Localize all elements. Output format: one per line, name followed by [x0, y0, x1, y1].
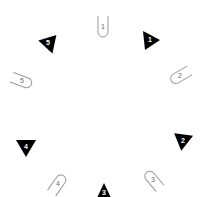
puzzle-board: 1 2 3 4 5 1 2	[0, 0, 202, 197]
triangle-label: 4	[21, 142, 31, 152]
slot-label: 5	[17, 76, 27, 86]
triangle-label: 5	[43, 38, 53, 48]
slot-label: 3	[148, 175, 158, 185]
slot-label: 2	[175, 71, 185, 81]
triangle-label: 2	[178, 136, 188, 146]
slot-label: 1	[98, 22, 108, 32]
slot-label: 4	[53, 179, 63, 189]
triangle-label: 1	[145, 35, 155, 45]
triangle-label: 3	[99, 188, 109, 197]
